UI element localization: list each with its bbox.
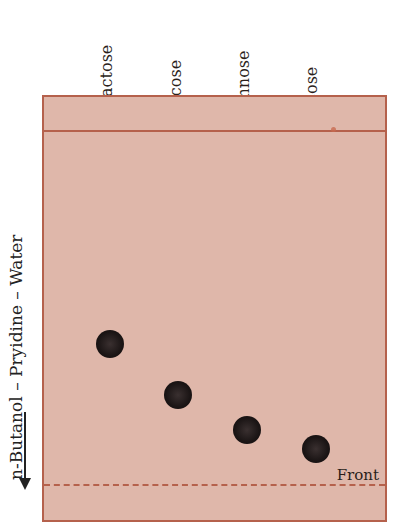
spot-mannose (233, 416, 261, 444)
front-label: Front (337, 466, 379, 484)
solvent-text: n-Butanol – Pryidine – Water (6, 235, 26, 480)
spot-glucose (164, 381, 192, 409)
chromatography-paper: Front (42, 95, 387, 522)
spot-fucose (302, 435, 330, 463)
arrow-down-icon (19, 478, 31, 490)
solvent-arrow-shaft (24, 412, 26, 484)
origin-mark (331, 127, 336, 132)
spot-galactose (96, 330, 124, 358)
solvent-front-line (44, 484, 385, 486)
